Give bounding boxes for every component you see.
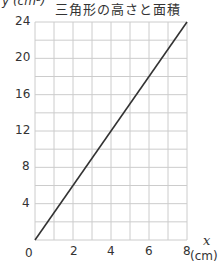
y-tick-8: 8 <box>22 159 30 173</box>
chart-canvas <box>0 0 221 270</box>
y-tick-12: 12 <box>15 123 30 137</box>
y-tick-20: 20 <box>15 50 30 64</box>
x-axis-unit: (cm) <box>190 249 218 263</box>
x-tick-4: 4 <box>107 244 115 258</box>
x-axis-variable: x <box>203 233 210 248</box>
origin-label: 0 <box>25 246 33 260</box>
chart-title: 三角形の高さと面積 <box>55 0 181 18</box>
x-tick-2: 2 <box>70 244 78 258</box>
y-tick-16: 16 <box>15 87 30 101</box>
y-tick-4: 4 <box>22 196 30 210</box>
x-tick-6: 6 <box>145 244 153 258</box>
y-tick-24: 24 <box>15 14 30 28</box>
y-axis-label: y (cm²) <box>2 0 45 8</box>
